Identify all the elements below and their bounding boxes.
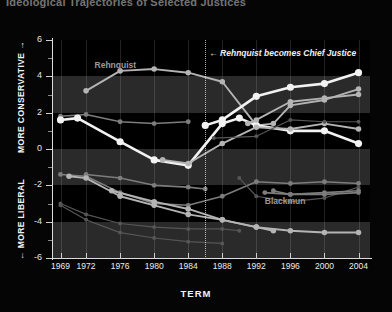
x-tick-label: 1976 bbox=[111, 261, 130, 271]
y-tick-label: -2 bbox=[24, 179, 42, 189]
series-scalia bbox=[202, 69, 362, 129]
chart-title: Ideological Trajectories of Selected Jus… bbox=[6, 0, 246, 8]
series-oconnor bbox=[160, 121, 361, 167]
data-point bbox=[356, 230, 362, 236]
data-point bbox=[236, 115, 243, 122]
data-point bbox=[254, 117, 260, 123]
data-point bbox=[152, 225, 156, 229]
data-point bbox=[356, 190, 361, 195]
series-brennan bbox=[59, 203, 225, 245]
data-point bbox=[220, 79, 226, 85]
data-point bbox=[355, 140, 362, 147]
data-point bbox=[321, 127, 328, 134]
data-point bbox=[254, 194, 258, 198]
x-tick-label: 2004 bbox=[349, 261, 368, 271]
y-tick-label: -6 bbox=[24, 252, 42, 262]
y-axis-caption-conservative: MORE CONSERVATIVE → bbox=[16, 41, 26, 153]
x-tick bbox=[61, 253, 62, 259]
data-point bbox=[83, 175, 89, 181]
data-point bbox=[288, 181, 293, 186]
y-tick-minor bbox=[48, 167, 52, 168]
data-point bbox=[151, 66, 157, 72]
data-point bbox=[220, 217, 226, 223]
data-point bbox=[254, 124, 260, 130]
event-vertical-line bbox=[205, 40, 206, 258]
series-label-rehnquist: Rehnquist bbox=[95, 60, 137, 70]
data-point bbox=[271, 121, 277, 127]
data-point bbox=[84, 218, 88, 222]
x-tick bbox=[120, 253, 121, 259]
data-point bbox=[288, 118, 292, 122]
data-point bbox=[220, 227, 224, 231]
data-point bbox=[74, 115, 81, 122]
x-axis-title: TERM bbox=[0, 288, 392, 299]
plot-area: ← Rehnquist becomes Chief Justice Rehnqu… bbox=[52, 40, 370, 258]
y-tick bbox=[46, 113, 52, 114]
data-point bbox=[356, 126, 362, 132]
y-tick-label: 2 bbox=[24, 107, 42, 117]
data-point bbox=[84, 212, 88, 216]
y-tick-minor bbox=[48, 131, 52, 132]
x-tick-label: 1988 bbox=[213, 261, 232, 271]
data-point bbox=[58, 172, 63, 177]
y-tick bbox=[46, 149, 52, 150]
data-point bbox=[357, 120, 361, 124]
data-point bbox=[185, 212, 191, 218]
x-tick bbox=[188, 253, 189, 259]
data-point bbox=[57, 116, 64, 123]
data-point bbox=[288, 126, 294, 132]
y-tick bbox=[46, 258, 52, 259]
x-tick-label: 1980 bbox=[145, 261, 164, 271]
data-point bbox=[219, 120, 226, 127]
data-point bbox=[83, 88, 89, 94]
series-label-blackmun: Blackmun bbox=[265, 196, 306, 206]
data-point bbox=[220, 241, 224, 245]
x-tick bbox=[290, 253, 291, 259]
chart-screenshot: Ideological Trajectories of Selected Jus… bbox=[0, 0, 392, 312]
y-tick bbox=[46, 76, 52, 77]
data-point bbox=[220, 141, 226, 147]
x-tick bbox=[324, 253, 325, 259]
data-point bbox=[253, 93, 260, 100]
x-tick bbox=[222, 253, 223, 259]
data-point bbox=[322, 230, 328, 236]
y-tick-minor bbox=[48, 204, 52, 205]
x-tick bbox=[86, 253, 87, 259]
data-point bbox=[322, 120, 326, 124]
data-point bbox=[186, 227, 190, 231]
data-point bbox=[356, 92, 362, 98]
x-tick bbox=[256, 253, 257, 259]
data-point bbox=[288, 228, 294, 234]
data-point bbox=[84, 112, 89, 117]
annotation-rehnquist-event: ← Rehnquist becomes Chief Justice bbox=[209, 48, 356, 58]
data-point bbox=[118, 231, 122, 235]
y-tick bbox=[46, 222, 52, 223]
data-point bbox=[185, 70, 191, 76]
data-point bbox=[254, 224, 260, 230]
data-point bbox=[322, 192, 327, 197]
data-point bbox=[152, 121, 157, 126]
data-point bbox=[220, 194, 225, 199]
data-point bbox=[254, 179, 259, 184]
series-powell bbox=[84, 172, 208, 191]
data-point bbox=[118, 119, 123, 124]
data-point bbox=[152, 183, 157, 188]
y-axis-line bbox=[52, 38, 53, 260]
data-point bbox=[152, 236, 156, 240]
x-tick-label: 2000 bbox=[315, 261, 334, 271]
y-tick bbox=[46, 185, 52, 186]
y-tick-label: 6 bbox=[24, 34, 42, 44]
data-point bbox=[287, 84, 294, 91]
series-stewart bbox=[58, 172, 361, 208]
y-tick-minor bbox=[48, 240, 52, 241]
data-point bbox=[151, 199, 157, 205]
y-tick-label: -4 bbox=[24, 216, 42, 226]
data-point bbox=[237, 229, 241, 233]
data-point bbox=[160, 157, 166, 163]
x-tick-label: 1972 bbox=[77, 261, 96, 271]
x-tick-label: 1984 bbox=[179, 261, 198, 271]
data-point bbox=[288, 99, 294, 105]
data-point bbox=[237, 176, 241, 180]
y-tick-minor bbox=[48, 95, 52, 96]
data-point bbox=[118, 176, 123, 181]
